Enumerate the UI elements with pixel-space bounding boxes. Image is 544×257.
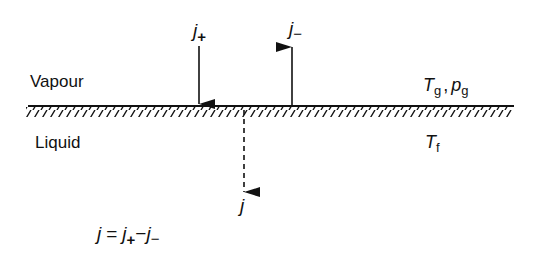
- liquid-label: Liquid: [35, 133, 80, 152]
- liquid-properties-label: Tf: [425, 132, 440, 155]
- liquid-hatching: [26, 107, 512, 117]
- vapour-properties-label: Tg,pg: [423, 75, 469, 98]
- interface-surface: [26, 106, 514, 117]
- vapour-label: Vapour: [30, 72, 84, 91]
- net-flux-label: j: [237, 195, 245, 216]
- flux-equation: j=j+−j−: [94, 223, 160, 248]
- incoming-flux-label: j+: [190, 20, 206, 45]
- evaporation-flux-diagram: Vapour Liquid Tg,pg Tf j+ j− j j=j+−j−: [0, 0, 544, 257]
- outgoing-flux-label: j−: [286, 18, 302, 42]
